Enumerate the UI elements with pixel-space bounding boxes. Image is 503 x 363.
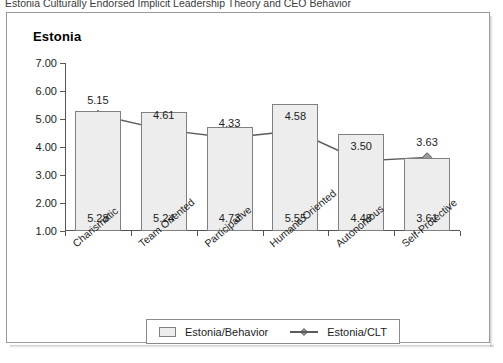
legend-label-behavior: Estonia/Behavior (185, 326, 268, 338)
bar-swatch-icon (159, 327, 176, 337)
x-axis-tick-mark (460, 231, 461, 236)
clt-value-label: 4.58 (285, 110, 306, 122)
x-axis-tick-mark (65, 231, 66, 236)
y-axis-tick-mark (60, 63, 65, 64)
y-axis-tick-mark (60, 91, 65, 92)
y-axis-tick-label: 1.00 (13, 225, 57, 237)
legend-label-clt: Estonia/CLT (327, 326, 387, 338)
clt-value-label: 5.15 (87, 94, 108, 106)
chart-title: Estonia (33, 29, 81, 44)
x-axis-tick-mark (328, 231, 329, 236)
y-axis-tick-mark (60, 175, 65, 176)
y-axis-tick-label: 6.00 (13, 85, 57, 97)
x-axis-tick-mark (394, 231, 395, 236)
clt-value-label: 3.50 (351, 140, 372, 152)
clt-value-label: 4.33 (219, 117, 240, 129)
line-marker-icon (290, 327, 318, 337)
figure-caption: Estonia Culturally Endorsed Implicit Lea… (5, 0, 495, 9)
y-axis-tick-mark (60, 147, 65, 148)
figure-root: Estonia Culturally Endorsed Implicit Lea… (0, 0, 503, 363)
x-axis-tick-mark (263, 231, 264, 236)
x-axis-tick-mark (197, 231, 198, 236)
panel-shadow-right (490, 16, 493, 347)
y-axis-tick-label: 7.00 (13, 57, 57, 69)
legend-item-clt[interactable]: Estonia/CLT (290, 326, 387, 338)
panel-shadow-bottom (10, 345, 494, 348)
y-axis-tick-label: 3.00 (13, 169, 57, 181)
y-axis-tick-label: 2.00 (13, 197, 57, 209)
chart-panel: Estonia 7.006.005.004.003.002.001.005.28… (6, 12, 490, 343)
y-axis-tick-label: 4.00 (13, 141, 57, 153)
clt-value-label: 4.61 (153, 109, 174, 121)
plot-area: 7.006.005.004.003.002.001.005.285.244.73… (65, 63, 460, 231)
x-axis-tick-mark (131, 231, 132, 236)
chart-legend: Estonia/Behavior Estonia/CLT (146, 319, 400, 344)
y-axis-tick-label: 5.00 (13, 113, 57, 125)
clt-value-label: 3.63 (416, 136, 437, 148)
clt-line-series (65, 63, 460, 231)
legend-item-behavior[interactable]: Estonia/Behavior (159, 326, 268, 338)
y-axis-tick-mark (60, 203, 65, 204)
y-axis-tick-mark (60, 119, 65, 120)
